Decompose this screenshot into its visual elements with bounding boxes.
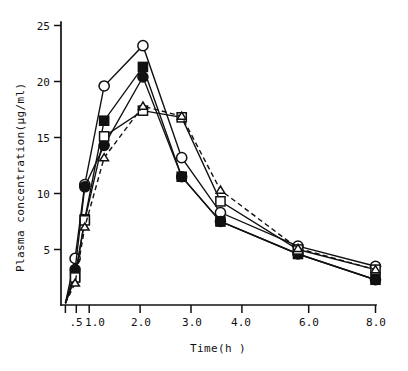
- marker-open-square: [100, 132, 109, 141]
- x-ticklabel-2.0: 2.0: [131, 316, 151, 329]
- y-ticklabel-10: 10: [37, 188, 50, 201]
- marker-open-circle: [99, 81, 109, 91]
- plasma-concentration-chart: Plasma concentration(µg/ml) 25 20 15 10 …: [0, 0, 408, 371]
- x-ticklabel-1.0: 1.0: [85, 316, 105, 329]
- marker-filled-square: [100, 116, 109, 125]
- marker-open-triangle: [139, 102, 148, 109]
- marker-filled-circle: [138, 72, 148, 82]
- y-ticklabel-15: 15: [37, 132, 50, 145]
- marker-open-circle: [138, 41, 148, 51]
- y-ticklabel-5: 5: [43, 244, 50, 257]
- x-ticklabel-0.5: .5: [69, 316, 82, 329]
- x-ticklabel-4.0: 4.0: [231, 316, 251, 329]
- series-layer: [65, 41, 380, 304]
- y-tick-group: [54, 26, 61, 250]
- x-ticklabel-group: .5 1.0 2.0 3.0 4.0 6.0 8.0: [69, 316, 386, 329]
- x-tick-group: [65, 305, 375, 313]
- marker-filled-circle: [370, 275, 380, 285]
- series-open-square: [65, 106, 380, 303]
- marker-filled-circle: [215, 216, 225, 226]
- series-filled-square: [65, 62, 380, 303]
- marker-open-circle: [177, 153, 187, 163]
- y-ticklabel-group: 25 20 15 10 5: [37, 20, 50, 257]
- marker-filled-square: [138, 62, 147, 71]
- marker-filled-circle: [177, 172, 187, 182]
- series-filled-circle: [65, 72, 380, 303]
- x-ticklabel-3.0: 3.0: [182, 316, 202, 329]
- y-ticklabel-20: 20: [37, 76, 50, 89]
- marker-open-square: [216, 197, 225, 206]
- marker-open-triangle: [216, 186, 225, 193]
- series-open-circle: [65, 41, 380, 304]
- x-axis-title: Time(h ): [190, 342, 246, 355]
- marker-filled-circle: [80, 182, 90, 192]
- chart-page: Plasma concentration(µg/ml) 25 20 15 10 …: [0, 0, 408, 371]
- y-ticklabel-25: 25: [37, 20, 50, 33]
- x-ticklabel-6.0: 6.0: [299, 316, 319, 329]
- x-ticklabel-8.0: 8.0: [366, 316, 386, 329]
- y-axis-title: Plasma concentration(µg/ml): [14, 82, 27, 272]
